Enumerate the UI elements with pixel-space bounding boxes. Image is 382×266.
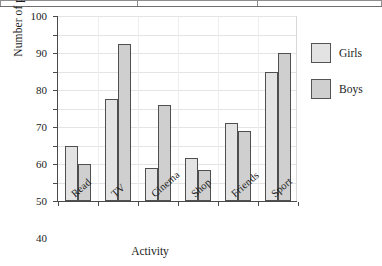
table-border-fragment bbox=[0, 0, 382, 7]
y-tick-label: 90 bbox=[36, 47, 47, 59]
plot-frame-right bbox=[296, 16, 297, 202]
table-divider-2 bbox=[257, 1, 258, 6]
y-tick-label: 80 bbox=[36, 84, 47, 96]
gridline-horizontal bbox=[58, 146, 296, 147]
y-tick-label: 50 bbox=[36, 195, 47, 207]
y-tick-mark: 20 bbox=[53, 164, 57, 165]
y-tick-mark: 60 bbox=[53, 90, 57, 91]
y-tick-label: 70 bbox=[36, 121, 47, 133]
gridline-vertical bbox=[98, 17, 99, 201]
table-divider-left bbox=[0, 1, 1, 6]
gridline-horizontal bbox=[58, 183, 296, 184]
x-tick-mark bbox=[138, 202, 139, 206]
legend-label-girls: Girls bbox=[339, 47, 362, 59]
legend-label-boys: Boys bbox=[339, 83, 363, 95]
y-tick-label: 60 bbox=[36, 158, 47, 170]
y-tick-label: 40 bbox=[36, 232, 47, 244]
y-axis-title: Number of people bbox=[12, 0, 28, 74]
gridline-horizontal bbox=[58, 72, 296, 73]
gridline-horizontal bbox=[58, 53, 296, 54]
x-tick-mark bbox=[58, 202, 59, 206]
legend-swatch-girls bbox=[311, 43, 331, 63]
y-tick-mark: 30 bbox=[53, 146, 57, 147]
y-tick-mark: 90 bbox=[53, 35, 57, 36]
bar-chart-figure: Number of people 0102030405060708090100 … bbox=[0, 0, 382, 266]
x-tick-mark bbox=[178, 202, 179, 206]
y-tick-mark: 70 bbox=[53, 72, 57, 73]
x-axis-title: Activity bbox=[0, 245, 300, 257]
y-tick-mark: 80 bbox=[53, 53, 57, 54]
x-axis-line bbox=[57, 201, 297, 202]
legend-item-boys: Boys bbox=[311, 78, 381, 100]
gridline-horizontal bbox=[58, 16, 296, 17]
bar-sport-girls bbox=[265, 72, 278, 202]
y-tick-mark: 0 bbox=[53, 201, 57, 202]
y-tick-mark: 50 bbox=[53, 109, 57, 110]
x-tick-mark bbox=[258, 202, 259, 206]
table-divider-1 bbox=[137, 1, 138, 6]
x-tick-mark bbox=[98, 202, 99, 206]
x-tick-mark bbox=[218, 202, 219, 206]
gridline-horizontal bbox=[58, 109, 296, 110]
bar-tv-boys bbox=[118, 44, 131, 201]
chart-legend: GirlsBoys bbox=[311, 42, 381, 114]
y-tick-mark: 100 bbox=[53, 16, 57, 17]
gridline-horizontal bbox=[58, 127, 296, 128]
y-tick-mark: 40 bbox=[53, 127, 57, 128]
gridline-horizontal bbox=[58, 90, 296, 91]
gridline-vertical bbox=[218, 17, 219, 201]
legend-item-girls: Girls bbox=[311, 42, 381, 64]
y-tick-mark: 10 bbox=[53, 183, 57, 184]
gridline-horizontal bbox=[58, 35, 296, 36]
gridline-vertical bbox=[138, 17, 139, 201]
x-tick-mark bbox=[298, 202, 299, 206]
legend-swatch-boys bbox=[311, 79, 331, 99]
y-tick-label: 100 bbox=[31, 10, 48, 22]
gridline-horizontal bbox=[58, 164, 296, 165]
